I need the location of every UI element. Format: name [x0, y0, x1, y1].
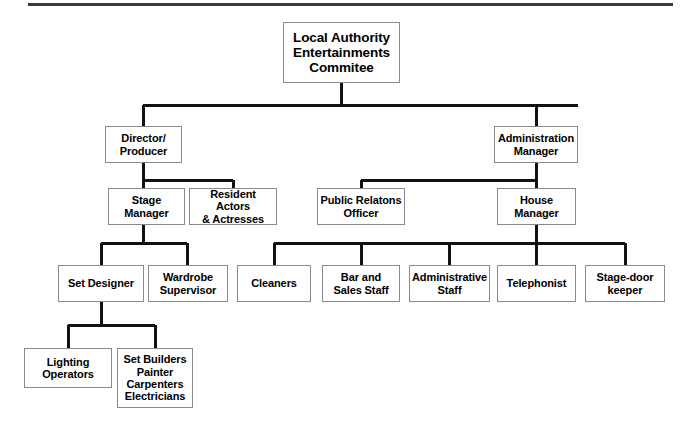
node-resident-actors-label: Resident Actors & Actresses — [190, 188, 276, 225]
node-set-designer-label: Set Designer — [59, 277, 143, 289]
node-set-builders-label: Set Builders Painter Carpenters Electric… — [118, 353, 192, 402]
node-committee-label: Local Authority Entertainments Commitee — [284, 30, 399, 75]
node-resident-actors[interactable]: Resident Actors & Actresses — [189, 188, 277, 225]
node-stage-manager[interactable]: Stage Manager — [108, 188, 185, 225]
node-director-producer[interactable]: Director/ Producer — [105, 126, 182, 163]
node-cleaners-label: Cleaners — [238, 277, 310, 289]
node-lighting-operators[interactable]: Lighting Operators — [24, 348, 112, 388]
node-cleaners[interactable]: Cleaners — [237, 265, 311, 302]
node-public-relations-officer-label: Public Relatons Officer — [318, 194, 404, 219]
node-stage-door-keeper[interactable]: Stage-door keeper — [585, 265, 665, 302]
node-house-manager-label: House Manager — [498, 194, 575, 219]
node-set-designer[interactable]: Set Designer — [58, 265, 144, 302]
top-divider-rule — [28, 3, 673, 6]
node-administrative-staff[interactable]: Administrative Staff — [409, 265, 490, 302]
org-chart: Local Authority Entertainments Commitee … — [0, 0, 681, 431]
node-bar-sales-staff[interactable]: Bar and Sales Staff — [322, 265, 400, 302]
node-administration-manager-label: Administration Manager — [495, 132, 577, 157]
node-telephonist-label: Telephonist — [498, 277, 575, 289]
node-public-relations-officer[interactable]: Public Relatons Officer — [317, 188, 405, 225]
node-bar-sales-staff-label: Bar and Sales Staff — [323, 271, 399, 296]
node-wardrobe-supervisor-label: Wardrobe Supervisor — [149, 271, 227, 296]
node-administration-manager[interactable]: Administration Manager — [494, 126, 578, 163]
node-telephonist[interactable]: Telephonist — [497, 265, 576, 302]
node-committee[interactable]: Local Authority Entertainments Commitee — [283, 22, 400, 83]
node-lighting-operators-label: Lighting Operators — [25, 356, 111, 381]
node-stage-manager-label: Stage Manager — [109, 194, 184, 219]
node-stage-door-keeper-label: Stage-door keeper — [586, 271, 664, 296]
node-wardrobe-supervisor[interactable]: Wardrobe Supervisor — [148, 265, 228, 302]
node-house-manager[interactable]: House Manager — [497, 188, 576, 225]
node-director-producer-label: Director/ Producer — [106, 132, 181, 157]
node-set-builders[interactable]: Set Builders Painter Carpenters Electric… — [117, 348, 193, 408]
node-administrative-staff-label: Administrative Staff — [410, 271, 489, 296]
